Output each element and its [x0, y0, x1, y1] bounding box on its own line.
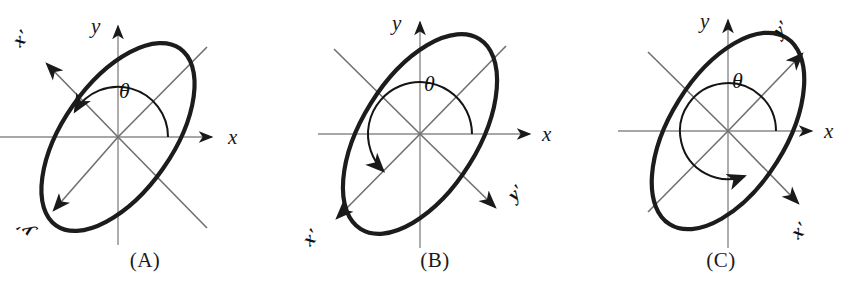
panel-c-diagram: x y y' x' θ — [580, 0, 862, 281]
axis-x-prime-label: x' — [785, 218, 811, 244]
axis-x-prime-label: x' — [7, 26, 33, 52]
angle-label: θ — [424, 71, 435, 96]
axis-x-label: x — [227, 125, 238, 149]
figure-container: x y x' y' θ (A) — [0, 0, 862, 281]
axis-y-prime-negative — [118, 137, 207, 228]
panel-b-caption: (B) — [290, 248, 580, 273]
axis-x-prime-label: x' — [297, 225, 323, 251]
axis-x-label: x — [541, 122, 552, 146]
axis-y-prime-negative — [648, 52, 728, 131]
panel-a: x y x' y' θ (A) — [0, 0, 290, 281]
axis-y-prime — [420, 134, 495, 207]
axis-y-label: y — [390, 11, 402, 35]
axis-y-prime — [54, 137, 118, 210]
panel-c-caption: (C) — [580, 248, 862, 273]
axis-y-label: y — [89, 14, 101, 38]
axis-y-label: y — [698, 9, 710, 33]
axis-y-prime-label: y' — [12, 217, 38, 243]
panel-b-diagram: x y x' y' θ — [290, 0, 580, 281]
panel-c: x y y' x' θ (C) — [580, 0, 862, 281]
panel-a-caption: (A) — [0, 248, 290, 273]
panel-a-diagram: x y x' y' θ — [0, 0, 290, 281]
panel-b: x y x' y' θ (B) — [290, 0, 580, 281]
axis-y-prime-label: y' — [502, 180, 528, 206]
angle-label: θ — [119, 78, 130, 103]
angle-label: θ — [732, 68, 743, 93]
axis-x-label: x — [823, 119, 834, 143]
